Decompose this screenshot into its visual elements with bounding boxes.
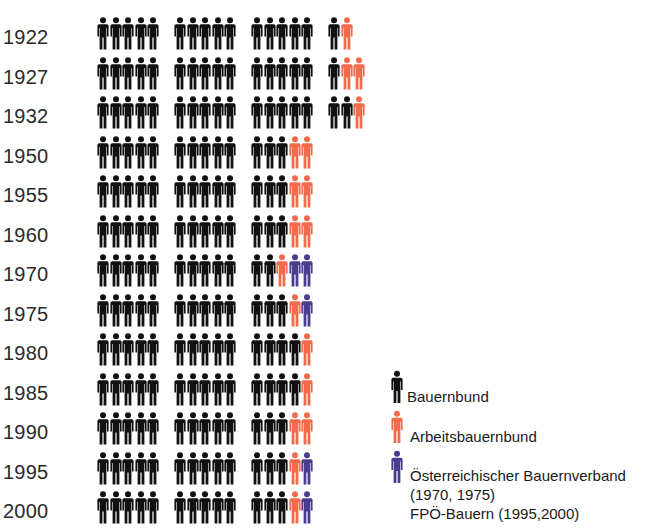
person-icon bbox=[353, 96, 365, 129]
person-icon bbox=[147, 17, 159, 50]
person-icon bbox=[251, 412, 263, 445]
person-icon bbox=[135, 294, 147, 327]
person-icon bbox=[122, 491, 134, 524]
legend-label: Österreichischer Bauernverband bbox=[410, 466, 626, 485]
person-icon bbox=[264, 452, 276, 485]
person-icon bbox=[251, 333, 263, 366]
person-icon bbox=[276, 136, 288, 169]
person-icon bbox=[97, 412, 109, 445]
person-icon bbox=[264, 215, 276, 248]
person-icon bbox=[212, 96, 224, 129]
person-icon bbox=[391, 370, 403, 404]
person-icon bbox=[224, 17, 236, 50]
person-icon bbox=[187, 452, 199, 485]
person-icon bbox=[212, 57, 224, 90]
person-icon bbox=[110, 57, 122, 90]
person-icon bbox=[251, 294, 263, 327]
chart-row: 1990 bbox=[0, 412, 390, 446]
person-icon bbox=[147, 215, 159, 248]
person-icon bbox=[110, 215, 122, 248]
person-icon bbox=[110, 136, 122, 169]
person-icon bbox=[301, 136, 313, 169]
person-icon bbox=[122, 17, 134, 50]
person-icon bbox=[199, 17, 211, 50]
person-icon bbox=[122, 254, 134, 287]
person-icon bbox=[174, 491, 186, 524]
person-icon bbox=[251, 452, 263, 485]
person-icon bbox=[276, 254, 288, 287]
person-icon bbox=[174, 175, 186, 208]
person-icon bbox=[276, 333, 288, 366]
chart-row: 1950 bbox=[0, 136, 390, 170]
person-icon bbox=[301, 294, 313, 327]
person-icon bbox=[187, 215, 199, 248]
person-icon bbox=[199, 96, 211, 129]
person-icon bbox=[212, 373, 224, 406]
person-icon bbox=[147, 254, 159, 287]
person-icon bbox=[289, 333, 301, 366]
year-label: 1960 bbox=[3, 224, 48, 246]
person-icon bbox=[224, 294, 236, 327]
person-icon bbox=[199, 57, 211, 90]
person-icon bbox=[391, 410, 403, 444]
person-icon bbox=[174, 17, 186, 50]
person-icon bbox=[301, 452, 313, 485]
person-icon bbox=[135, 215, 147, 248]
year-label: 1975 bbox=[3, 303, 48, 325]
person-icon bbox=[301, 254, 313, 287]
person-icon bbox=[289, 57, 301, 90]
person-icon bbox=[341, 96, 353, 129]
person-icon bbox=[224, 373, 236, 406]
person-icon bbox=[224, 254, 236, 287]
person-icon bbox=[199, 254, 211, 287]
person-icon bbox=[187, 175, 199, 208]
legend: Bauernbund Arbeitsbauernbund Österreichi… bbox=[390, 368, 672, 528]
person-icon bbox=[264, 333, 276, 366]
person-icon bbox=[289, 294, 301, 327]
person-icon bbox=[264, 57, 276, 90]
person-icon bbox=[174, 136, 186, 169]
chart-row: 2000 bbox=[0, 491, 390, 525]
person-icon bbox=[301, 412, 313, 445]
person-icon bbox=[251, 373, 263, 406]
person-icon bbox=[174, 294, 186, 327]
person-icon bbox=[301, 373, 313, 406]
person-icon bbox=[289, 136, 301, 169]
person-icon bbox=[251, 175, 263, 208]
person-icon bbox=[110, 294, 122, 327]
year-label: 1970 bbox=[3, 263, 48, 285]
person-icon bbox=[251, 57, 263, 90]
person-icon bbox=[224, 491, 236, 524]
person-icon bbox=[289, 175, 301, 208]
chart-row: 1927 bbox=[0, 57, 390, 91]
person-icon bbox=[276, 57, 288, 90]
person-icon bbox=[135, 96, 147, 129]
person-icon bbox=[147, 175, 159, 208]
person-icon bbox=[187, 254, 199, 287]
person-icon bbox=[97, 294, 109, 327]
person-icon bbox=[199, 215, 211, 248]
person-icon bbox=[110, 373, 122, 406]
person-icon bbox=[199, 136, 211, 169]
person-icon bbox=[224, 96, 236, 129]
person-icon bbox=[135, 57, 147, 90]
person-icon bbox=[199, 175, 211, 208]
chart-row: 1975 bbox=[0, 294, 390, 328]
person-icon bbox=[289, 254, 301, 287]
person-icon bbox=[341, 17, 353, 50]
person-icon bbox=[301, 96, 313, 129]
year-label: 1990 bbox=[3, 421, 48, 443]
person-icon bbox=[199, 373, 211, 406]
person-icon bbox=[122, 333, 134, 366]
chart-row: 1970 bbox=[0, 254, 390, 288]
person-icon bbox=[174, 333, 186, 366]
person-icon bbox=[212, 491, 224, 524]
person-icon bbox=[264, 136, 276, 169]
person-icon bbox=[135, 175, 147, 208]
person-icon bbox=[174, 373, 186, 406]
chart-row: 1932 bbox=[0, 96, 390, 130]
person-icon bbox=[97, 136, 109, 169]
person-icon bbox=[301, 333, 313, 366]
person-icon bbox=[301, 491, 313, 524]
person-icon bbox=[264, 412, 276, 445]
